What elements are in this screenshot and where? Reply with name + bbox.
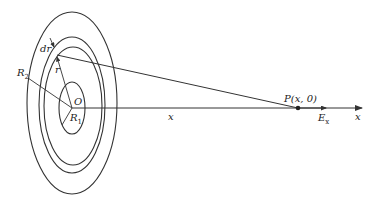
- ring-inner: [44, 47, 102, 165]
- x-mid-label: x: [168, 112, 174, 122]
- dr-label: dr: [40, 44, 51, 54]
- R1-label: R1: [70, 113, 82, 126]
- diagram-svg: [0, 0, 376, 208]
- x-axis-label: x: [355, 112, 361, 122]
- R2-label: R2: [17, 68, 29, 81]
- point-P: [296, 106, 301, 111]
- R2-radius-line: [28, 78, 72, 108]
- ring-outer: [39, 37, 105, 173]
- outer-ellipse: [27, 12, 117, 194]
- P-label: P(x, 0): [284, 94, 317, 104]
- Ex-label: Ex: [318, 113, 329, 126]
- O-label: O: [74, 97, 82, 107]
- diagram-canvas: dr r R2 O R1 x P(x, 0) Ex x: [0, 0, 376, 208]
- r-label: r: [55, 65, 60, 75]
- ring-to-P-line: [57, 55, 298, 108]
